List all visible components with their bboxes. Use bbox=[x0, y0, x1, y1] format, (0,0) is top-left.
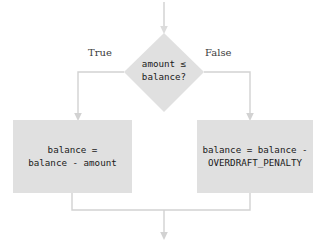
false-branch-connector bbox=[204, 72, 254, 121]
true-branch-connector bbox=[74, 72, 124, 121]
decision-text-line1: amount ≤ bbox=[142, 58, 186, 69]
process-box-withdraw-label: balance =balance - amount bbox=[13, 144, 132, 169]
withdraw-text-line2: balance - amount bbox=[28, 157, 117, 168]
edge-label-true: True bbox=[88, 47, 112, 58]
process-box-overdraft-label: balance = balance -OVERDRAFT_PENALTY bbox=[195, 144, 315, 169]
withdraw-text-line1: balance = bbox=[48, 144, 98, 155]
overdraft-text-line2: OVERDRAFT_PENALTY bbox=[208, 157, 302, 168]
flowchart-canvas: amount ≤balance? balance =balance - amou… bbox=[0, 0, 326, 242]
entry-arrow bbox=[160, 2, 168, 34]
decision-text-line2: balance? bbox=[142, 71, 186, 82]
decision-node-label: amount ≤balance? bbox=[124, 58, 204, 83]
overdraft-text-line1: balance = balance - bbox=[202, 144, 307, 155]
edge-label-false: False bbox=[205, 47, 231, 58]
flowchart-graphics bbox=[0, 0, 326, 242]
merge-connector bbox=[72, 193, 250, 240]
